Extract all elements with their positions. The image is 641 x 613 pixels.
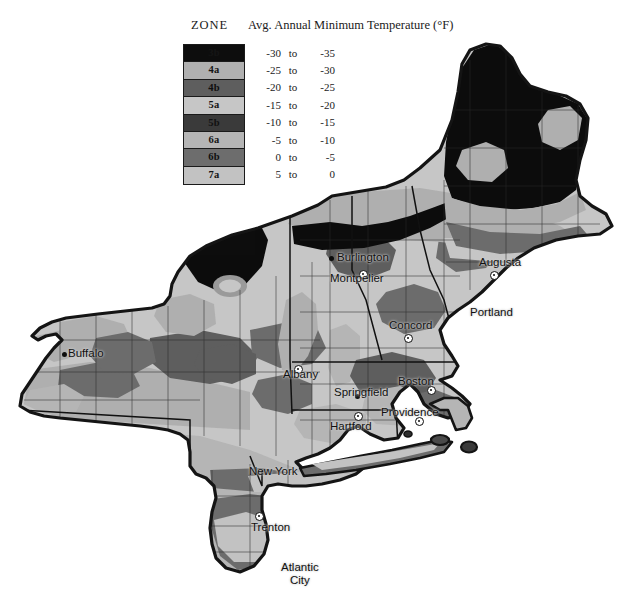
temp-low: 0 — [245, 151, 281, 163]
temp-to: to — [281, 151, 305, 163]
legend-temp-row-3b: -30to-35 — [245, 44, 335, 61]
legend-swatch-5a: 5a — [184, 97, 244, 114]
city-label-springfield: Springfield — [334, 386, 388, 398]
city-label-albany: Albany — [283, 368, 318, 380]
legend-temperature-column: -30to-35-25to-30-20to-25-15to-20-10to-15… — [245, 44, 335, 183]
legend-temp-row-7a: 5to0 — [245, 166, 335, 183]
temp-low: -25 — [245, 64, 281, 76]
legend-swatch-4a: 4a — [184, 62, 244, 79]
city-label-hartford: Hartford — [330, 420, 372, 432]
legend-swatch-label: 5b — [208, 118, 220, 129]
city-label-augusta: Augusta — [479, 256, 521, 268]
temp-high: -20 — [305, 99, 335, 111]
legend-temp-row-6a: -5to-10 — [245, 131, 335, 148]
temp-high: -25 — [305, 81, 335, 93]
city-label-buffalo: Buffalo — [68, 347, 104, 359]
city-label-concord: Concord — [389, 319, 432, 331]
city-label-new-york: New York — [249, 465, 298, 477]
legend-swatch-4b: 4b — [184, 80, 244, 97]
city-marker-providence — [415, 417, 424, 426]
temp-high: -30 — [305, 64, 335, 76]
legend-swatch-3b: 3b — [184, 45, 244, 62]
legend-swatch-7a: 7a — [184, 167, 244, 184]
city-label-line2: City — [290, 574, 310, 586]
legend-swatch-6b: 6b — [184, 149, 244, 166]
temp-to: to — [281, 116, 305, 128]
temp-to: to — [281, 168, 305, 180]
temp-low: -20 — [245, 81, 281, 93]
temp-to: to — [281, 64, 305, 76]
temp-high: -10 — [305, 134, 335, 146]
legend-swatch-column: 3b4a4b5a5b6a6b7a — [183, 44, 245, 185]
legend-temp-row-4b: -20to-25 — [245, 79, 335, 96]
temp-low: -10 — [245, 116, 281, 128]
legend-swatch-label: 7a — [208, 170, 219, 181]
legend-swatch-label: 4a — [208, 65, 219, 76]
temp-to: to — [281, 81, 305, 93]
city-marker-burlington — [329, 256, 334, 261]
city-marker-boston — [427, 386, 436, 395]
temp-high: -5 — [305, 151, 335, 163]
temp-high: 0 — [305, 168, 335, 180]
legend-temperature-header: Avg. Annual Minimum Temperature (°F) — [248, 18, 453, 33]
temp-high: -35 — [305, 47, 335, 59]
temp-to: to — [281, 47, 305, 59]
city-label-providence: Providence — [381, 406, 439, 418]
city-marker-augusta — [490, 271, 499, 280]
city-label-atlantic: AtlanticCity — [281, 561, 319, 586]
city-label-boston: Boston — [398, 375, 434, 387]
temp-low: 5 — [245, 168, 281, 180]
legend-swatch-label: 6b — [208, 152, 220, 163]
legend-temp-row-4a: -25to-30 — [245, 61, 335, 78]
temp-to: to — [281, 134, 305, 146]
legend-swatch-label: 6a — [208, 135, 219, 146]
city-label-montpelier: Montpelier — [330, 272, 384, 284]
temp-low: -15 — [245, 99, 281, 111]
temp-high: -15 — [305, 116, 335, 128]
legend-swatch-5b: 5b — [184, 115, 244, 132]
nantucket — [461, 442, 477, 453]
city-label-trenton: Trenton — [251, 521, 290, 533]
legend-zone-header: ZONE — [191, 18, 228, 33]
city-marker-concord — [404, 334, 413, 343]
temp-low: -30 — [245, 47, 281, 59]
temp-to: to — [281, 99, 305, 111]
city-label-portland: Portland — [470, 306, 513, 318]
legend-temp-row-5a: -15to-20 — [245, 96, 335, 113]
city-label-burlington: Burlington — [337, 251, 389, 263]
legend-swatch-6a: 6a — [184, 132, 244, 149]
marthas-vineyard — [431, 435, 449, 445]
legend-swatch-label: 3b — [208, 48, 220, 59]
legend-swatch-label: 4b — [208, 83, 220, 94]
map-legend: ZONE Avg. Annual Minimum Temperature (°F… — [183, 18, 483, 44]
legend-temp-row-5b: -10to-15 — [245, 114, 335, 131]
legend-temp-row-6b: 0to-5 — [245, 148, 335, 165]
temp-low: -5 — [245, 134, 281, 146]
city-marker-buffalo — [62, 352, 67, 357]
city-marker-trenton — [255, 512, 264, 521]
legend-swatch-label: 5a — [208, 100, 219, 111]
block-island — [404, 431, 412, 437]
